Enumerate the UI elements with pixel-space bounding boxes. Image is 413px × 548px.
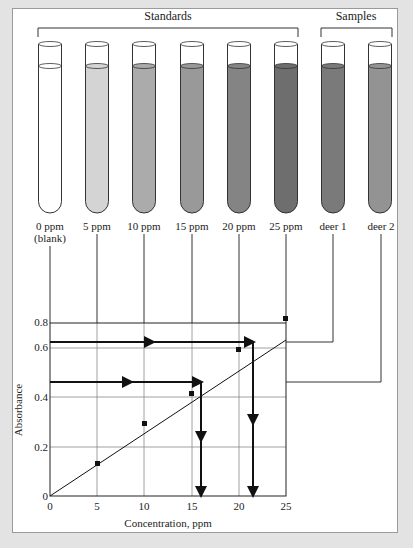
test-tube xyxy=(86,42,109,214)
x-tick-0: 0 xyxy=(40,500,60,512)
samples-label: Samples xyxy=(316,10,396,22)
x-tick-20: 20 xyxy=(229,500,249,512)
y-axis-title: Absorbance xyxy=(12,370,24,450)
x-tick-5: 5 xyxy=(87,500,107,512)
test-tubes xyxy=(39,42,392,214)
plot-grid xyxy=(50,323,286,496)
figure-graphics xyxy=(0,0,413,548)
test-tube xyxy=(369,42,392,214)
tube-sublabel-blank: (blank) xyxy=(20,232,80,244)
y-tick-0.6: 0.6 xyxy=(24,341,48,353)
y-tick-0.4: 0.4 xyxy=(24,391,48,403)
test-tube xyxy=(275,42,298,214)
standards-bracket xyxy=(38,28,298,37)
deer2-reading-arrows xyxy=(50,382,201,492)
samples-bracket xyxy=(321,28,392,37)
data-points xyxy=(95,316,288,466)
x-axis-title: Concentration, ppm xyxy=(118,517,218,529)
test-tube xyxy=(322,42,345,214)
y-tick-0.8: 0.8 xyxy=(24,316,48,328)
tube-label-deer2: deer 2 xyxy=(351,220,411,232)
x-tick-15: 15 xyxy=(182,500,202,512)
test-tube xyxy=(39,42,62,213)
standards-label: Standards xyxy=(128,10,208,22)
calibration-line xyxy=(50,340,286,496)
y-tick-0.2: 0.2 xyxy=(24,441,48,453)
test-tube xyxy=(181,42,204,214)
test-tube xyxy=(228,42,251,214)
x-tick-10: 10 xyxy=(134,500,154,512)
x-tick-25: 25 xyxy=(276,500,296,512)
deer1-reading-arrows xyxy=(50,342,253,492)
plot-area xyxy=(50,323,286,496)
connector-lines xyxy=(50,234,381,382)
test-tube xyxy=(133,42,156,214)
